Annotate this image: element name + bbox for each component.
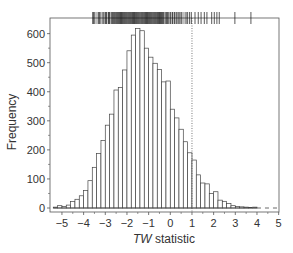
y-tick-label: 600 [27, 28, 45, 40]
histogram-bars [53, 28, 257, 208]
x-axis-label-rest: statistic [152, 232, 195, 246]
x-tick-label: −4 [77, 217, 90, 229]
histogram-bar [110, 114, 114, 208]
histogram-bar [153, 63, 157, 208]
histogram-bar [88, 181, 92, 208]
histogram-bar [75, 199, 79, 208]
histogram-bar [144, 48, 148, 208]
y-tick-label: 100 [27, 173, 45, 185]
histogram-bar [140, 31, 144, 208]
x-tick-label: −5 [56, 217, 69, 229]
histogram-bar [166, 81, 170, 208]
x-tick-label: 4 [254, 217, 260, 229]
x-tick-label: −3 [99, 217, 112, 229]
histogram-bar [79, 196, 83, 208]
histogram-bar [131, 35, 135, 208]
x-tick-label: −1 [142, 217, 155, 229]
histogram-bar [101, 141, 105, 208]
histogram-bar [179, 129, 183, 208]
histogram-bar [127, 51, 131, 208]
histogram-bar [97, 153, 101, 208]
histogram-bar [123, 70, 127, 208]
x-tick-label: 0 [167, 217, 173, 229]
histogram-bar [205, 184, 209, 208]
x-axis: −5−4−3−2−1012345 [56, 212, 282, 229]
y-axis: 0100200300400500600 [27, 28, 50, 214]
x-tick-label: −2 [121, 217, 134, 229]
histogram-bar [84, 191, 88, 208]
histogram-bar [92, 167, 96, 208]
x-tick-label: 1 [189, 217, 195, 229]
y-tick-label: 200 [27, 144, 45, 156]
histogram-bar [157, 69, 161, 208]
x-axis-label-italic: TW [133, 232, 153, 246]
x-tick-label: 3 [232, 217, 238, 229]
histogram-bar [188, 153, 192, 208]
histogram-chart: 0100200300400500600 −5−4−3−2−1012345 Fre… [0, 0, 293, 253]
histogram-bar [136, 28, 140, 208]
x-axis-label: TW statistic [133, 232, 195, 246]
histogram-bar [192, 160, 196, 208]
y-axis-label: Frequency [5, 94, 19, 151]
histogram-bar [201, 183, 205, 208]
y-tick-label: 300 [27, 115, 45, 127]
x-tick-label: 2 [211, 217, 217, 229]
histogram-bar [114, 90, 118, 208]
histogram-bar [149, 57, 153, 208]
histogram-bar [66, 205, 70, 208]
histogram-bar [209, 193, 213, 208]
histogram-bar [218, 200, 222, 208]
histogram-bar [175, 118, 179, 208]
y-tick-label: 400 [27, 86, 45, 98]
histogram-bar [170, 109, 174, 208]
histogram-bar [214, 192, 218, 208]
y-tick-label: 500 [27, 57, 45, 69]
histogram-bar [183, 142, 187, 208]
histogram-bar [227, 203, 231, 208]
x-tick-label: 5 [276, 217, 282, 229]
histogram-bar [162, 82, 166, 208]
y-tick-label: 0 [39, 202, 45, 214]
histogram-bar [118, 87, 122, 208]
histogram-bar [105, 125, 109, 208]
histogram-bar [196, 175, 200, 208]
histogram-bar [71, 202, 75, 208]
histogram-bar [222, 201, 226, 208]
